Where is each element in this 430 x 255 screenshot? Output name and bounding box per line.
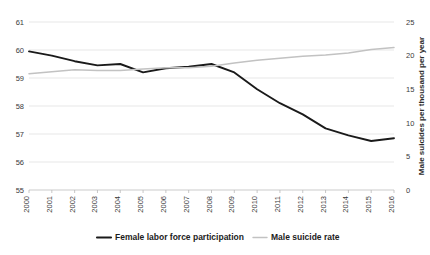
- legend-label: Male suicide rate: [271, 232, 340, 242]
- dual-axis-line-chart: 55565758596061 0510152025 20002001200220…: [0, 0, 430, 255]
- gridlines: [29, 22, 394, 190]
- y-axis-left-tick-label: 59: [16, 74, 24, 83]
- y-axis-left-tick-label: 55: [16, 186, 24, 195]
- x-axis-tick-label: 2012: [296, 196, 305, 213]
- y-axis-left-tick-label: 56: [16, 158, 24, 167]
- x-axis-tick-label: 2006: [159, 196, 168, 213]
- y-axis-right-tick-label: 25: [406, 18, 414, 27]
- tick-marks: [29, 190, 394, 193]
- x-axis-tick-label: 2013: [319, 196, 328, 213]
- series-line-female-labor-force-participation: [29, 51, 394, 141]
- y-axis-right-tick-label: 15: [406, 85, 414, 94]
- y-axis-right-tick-label: 0: [406, 186, 410, 195]
- x-axis-tick-label: 2005: [136, 196, 145, 213]
- chart-legend: Female labor force participationMale sui…: [97, 232, 340, 242]
- x-axis-tick-label: 2002: [68, 196, 77, 213]
- x-axis-labels: 2000200120022003200420052006200720082009…: [22, 196, 396, 213]
- series-line-male-suicide-rate: [29, 48, 394, 74]
- y-axis-right-title: Male suicides per thousand per year: [417, 37, 426, 175]
- x-axis-tick-label: 2004: [113, 196, 122, 213]
- y-axis-right-tick-label: 10: [406, 119, 414, 128]
- y-axis-left-tick-label: 61: [16, 18, 24, 27]
- chart-container: 55565758596061 0510152025 20002001200220…: [0, 0, 430, 255]
- x-axis-tick-label: 2003: [90, 196, 99, 213]
- x-axis-tick-label: 2014: [341, 196, 350, 213]
- x-axis-tick-label: 2000: [22, 196, 31, 213]
- y-axis-left-tick-label: 58: [16, 102, 24, 111]
- x-axis-tick-label: 2001: [45, 196, 54, 213]
- y-axis-right-tick-label: 5: [406, 152, 410, 161]
- x-axis-tick-label: 2007: [182, 196, 191, 213]
- data-series: [29, 48, 394, 141]
- x-axis-tick-label: 2009: [227, 196, 236, 213]
- y-axis-left-tick-label: 57: [16, 130, 24, 139]
- y-axis-right-labels: 0510152025: [406, 18, 414, 195]
- x-axis-tick-label: 2010: [250, 196, 259, 213]
- x-axis-tick-label: 2008: [205, 196, 214, 213]
- y-axis-left-labels: 55565758596061: [16, 18, 24, 195]
- y-axis-right-tick-label: 20: [406, 51, 414, 60]
- x-axis-tick-label: 2011: [273, 196, 282, 212]
- legend-label: Female labor force participation: [115, 232, 244, 242]
- x-axis-tick-label: 2016: [387, 196, 396, 213]
- y-axis-left-tick-label: 60: [16, 46, 24, 55]
- x-axis-tick-label: 2015: [364, 196, 373, 213]
